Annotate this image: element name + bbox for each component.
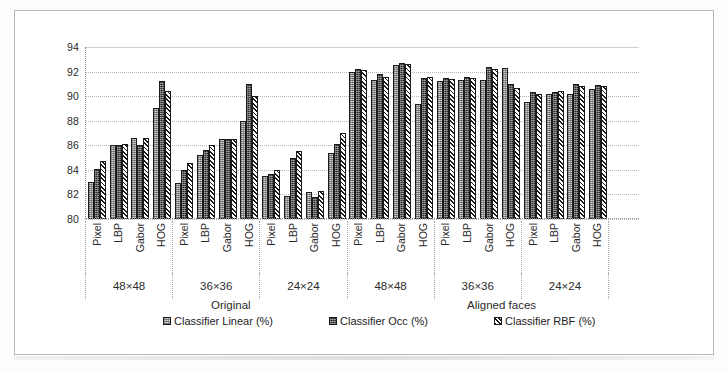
x-label-cell: HOG: [587, 221, 609, 273]
x-label-cell: Gabor: [391, 221, 413, 273]
section-label-aligned-faces: Aligned faces: [467, 299, 536, 311]
bar-cluster-hog: [326, 47, 348, 219]
bar[interactable]: [122, 144, 128, 219]
x-tick-label-gabor: Gabor: [221, 223, 233, 252]
bar[interactable]: [318, 191, 324, 219]
x-tick-label-hog: HOG: [330, 223, 342, 247]
bar[interactable]: [427, 77, 433, 220]
bar-cluster-pixel: [260, 47, 282, 219]
bar-cluster-gabor: [304, 47, 326, 219]
x-label-cell: LBP: [108, 221, 130, 273]
x-label-cell: Gabor: [478, 221, 500, 273]
x-tick-label-pixel: Pixel: [265, 223, 277, 246]
bar[interactable]: [492, 69, 498, 219]
group-size-label-5: 36×36: [435, 273, 522, 299]
legend-label: Classifier RBF (%): [505, 315, 595, 327]
x-label-cell: Pixel: [348, 221, 370, 273]
bar-group-3: [260, 47, 347, 219]
bar-cluster-hog: [413, 47, 435, 219]
bar[interactable]: [340, 133, 346, 219]
bar[interactable]: [209, 145, 215, 219]
bar-cluster-pixel: [348, 47, 370, 219]
x-label-cell: Gabor: [129, 221, 151, 273]
legend-swatch-rbf: [494, 317, 502, 325]
x-tick-label-hog: HOG: [243, 223, 255, 247]
bar[interactable]: [361, 70, 367, 219]
bar[interactable]: [165, 91, 171, 219]
scanned-figure-page: 9492908886848280 PixelLBPGaborHOGPixelLB…: [0, 0, 728, 372]
bar[interactable]: [449, 79, 455, 219]
y-tick-label-86: 86: [67, 139, 86, 151]
bar-cluster-gabor: [565, 47, 587, 219]
bar-group-6: [522, 47, 609, 219]
legend-item-3[interactable]: Classifier RBF (%): [494, 315, 595, 327]
x-label-cell: Pixel: [435, 221, 457, 273]
y-tick-label-92: 92: [67, 66, 86, 78]
x-tick-label-lbp: LBP: [199, 223, 211, 243]
bar-cluster-hog: [500, 47, 522, 219]
bar-cluster-pixel: [522, 47, 544, 219]
bar[interactable]: [536, 94, 542, 219]
scan-edge-artifact: [14, 356, 714, 360]
legend-item-2[interactable]: Classifier Occ (%): [329, 315, 428, 327]
bar[interactable]: [100, 161, 106, 219]
x-label-cell: HOG: [238, 221, 260, 273]
x-label-cell: HOG: [325, 221, 347, 273]
x-label-group-2: PixelLBPGaborHOG: [173, 221, 260, 273]
x-label-group-3: PixelLBPGaborHOG: [260, 221, 347, 273]
x-tick-label-lbp: LBP: [112, 223, 124, 243]
x-label-cell: LBP: [282, 221, 304, 273]
x-label-cell: LBP: [543, 221, 565, 273]
bar[interactable]: [405, 64, 411, 219]
x-label-cell: HOG: [499, 221, 521, 273]
x-label-group-5: PixelLBPGaborHOG: [435, 221, 522, 273]
x-tick-label-gabor: Gabor: [483, 223, 495, 252]
legend-item-1[interactable]: Classifier Linear (%): [163, 315, 273, 327]
x-label-group-4: PixelLBPGaborHOG: [348, 221, 435, 273]
legend-swatch-linear: [163, 317, 171, 325]
bar-cluster-gabor: [217, 47, 239, 219]
bar[interactable]: [558, 91, 564, 219]
group-size-label-4: 48×48: [348, 273, 435, 299]
x-tick-label-pixel: Pixel: [439, 223, 451, 246]
bar[interactable]: [296, 151, 302, 219]
bar[interactable]: [252, 96, 258, 219]
bar-cluster-gabor: [391, 47, 413, 219]
bar[interactable]: [187, 163, 193, 220]
x-label-cell: LBP: [456, 221, 478, 273]
x-label-cell: Gabor: [303, 221, 325, 273]
bar[interactable]: [274, 170, 280, 219]
x-label-cell: Pixel: [173, 221, 195, 273]
x-tick-label-hog: HOG: [504, 223, 516, 247]
group-size-label-2: 36×36: [173, 273, 260, 299]
bar[interactable]: [143, 138, 149, 219]
x-label-cell: LBP: [195, 221, 217, 273]
bar[interactable]: [383, 77, 389, 220]
y-tick-label-90: 90: [67, 90, 86, 102]
chart-legend: Classifier Linear (%)Classifier Occ (%)C…: [85, 311, 625, 331]
bar[interactable]: [514, 88, 520, 219]
bar[interactable]: [579, 86, 585, 219]
gridline-80: [86, 219, 639, 220]
x-tick-label-pixel: Pixel: [91, 223, 103, 246]
x-axis-line: [86, 218, 639, 219]
bar[interactable]: [601, 86, 607, 219]
x-label-cell: HOG: [412, 221, 434, 273]
bar-cluster-hog: [151, 47, 173, 219]
bar-cluster-lbp: [544, 47, 566, 219]
x-tick-label-gabor: Gabor: [308, 223, 320, 252]
bar-group-2: [173, 47, 260, 219]
x-tick-label-gabor: Gabor: [134, 223, 146, 252]
x-label-cell: Gabor: [216, 221, 238, 273]
y-tick-label-80: 80: [67, 213, 86, 225]
x-label-cell: Gabor: [565, 221, 587, 273]
bar-group-4: [348, 47, 435, 219]
bar[interactable]: [231, 139, 237, 219]
bar-cluster-lbp: [369, 47, 391, 219]
y-tick-label-84: 84: [67, 164, 86, 176]
bar-cluster-lbp: [108, 47, 130, 219]
bar-group-1: [86, 47, 173, 219]
x-label-cell: Pixel: [522, 221, 544, 273]
bar[interactable]: [470, 78, 476, 219]
x-tick-label-hog: HOG: [417, 223, 429, 247]
